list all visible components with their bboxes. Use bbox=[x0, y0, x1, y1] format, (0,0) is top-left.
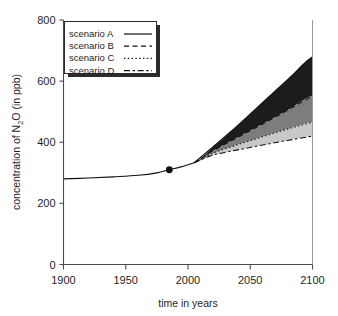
legend[interactable]: scenario Ascenario Bscenario Cscenario D bbox=[65, 22, 161, 78]
y-tick-label: 0 bbox=[49, 259, 55, 271]
observation-marker-dot bbox=[166, 166, 173, 173]
chart-canvas: 0200400600800 19001950200020502100 time … bbox=[0, 0, 338, 316]
y-tick-label: 200 bbox=[37, 197, 55, 209]
chart-figure: 0200400600800 19001950200020502100 time … bbox=[0, 0, 338, 316]
y-tick-label: 400 bbox=[37, 136, 55, 148]
legend-label: scenario D bbox=[69, 65, 115, 76]
y-tick-label: 600 bbox=[37, 75, 55, 87]
x-axis-label: time in years bbox=[158, 297, 218, 309]
y-axis-label-post: O (in ppb) bbox=[10, 74, 22, 121]
legend-label: scenario A bbox=[69, 28, 114, 39]
x-tick-label: 1950 bbox=[114, 274, 138, 286]
x-tick-label: 2050 bbox=[238, 274, 262, 286]
y-axis-label-pre: concentration of N bbox=[10, 125, 22, 210]
legend-label: scenario B bbox=[69, 40, 114, 51]
x-tick-label: 1900 bbox=[51, 274, 75, 286]
x-tick-label: 2000 bbox=[176, 274, 200, 286]
x-tick-label: 2100 bbox=[300, 274, 324, 286]
y-tick-label: 800 bbox=[37, 14, 55, 26]
legend-label: scenario C bbox=[69, 52, 115, 63]
